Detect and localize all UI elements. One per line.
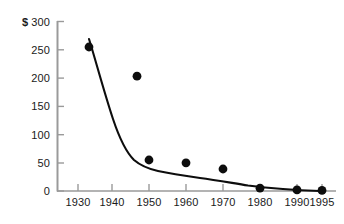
- plot-area: [0, 0, 344, 224]
- chart-container: $ 300 250 200 150 100 50 0 1930 1940 195…: [0, 0, 344, 224]
- data-point-1950: [145, 156, 154, 165]
- data-point-1960: [182, 158, 191, 167]
- data-point-1980: [256, 184, 265, 193]
- data-point-1946: [133, 72, 142, 81]
- data-point-1933: [85, 43, 94, 52]
- fitted-curve: [89, 39, 320, 191]
- data-point-1970: [219, 165, 228, 174]
- data-point-markers: [85, 43, 327, 195]
- data-point-1995: [318, 186, 327, 195]
- data-point-1990: [293, 186, 302, 195]
